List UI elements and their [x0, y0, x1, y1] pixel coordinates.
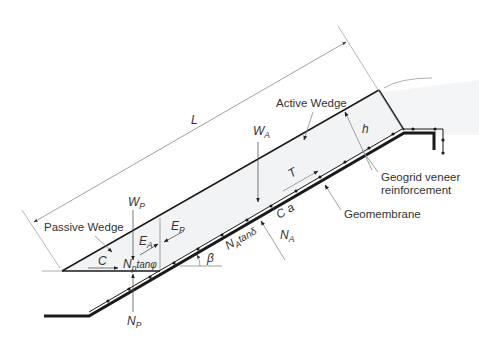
beta-arc — [197, 255, 200, 266]
geomembrane-pointer — [325, 185, 341, 210]
geogrid-label-line2: reinforcement — [381, 184, 452, 196]
crest-curve — [384, 78, 432, 88]
weight-active-label: WA — [253, 124, 270, 140]
cohesion-label: C — [98, 254, 107, 268]
veneer-slope-diagram: L Active Wedge h WA T C a NA NAtanδ Geog… — [0, 0, 479, 346]
slope-angle-label: β — [206, 251, 214, 265]
passive-wedge-label: Passive Wedge — [44, 221, 124, 233]
weight-passive-label: WP — [128, 195, 145, 211]
adhesion-label: C a — [274, 200, 297, 222]
length-label: L — [191, 113, 198, 127]
thickness-label: h — [362, 122, 369, 136]
geogrid-label: Geogrid veneer — [381, 171, 460, 183]
geomembrane-label: Geomembrane — [344, 208, 421, 220]
normal-active-label: NA — [280, 228, 295, 244]
active-wedge-label: Active Wedge — [276, 97, 347, 109]
cover-soil-surface — [62, 90, 379, 271]
extension-line-left — [22, 210, 60, 268]
normal-passive-label: NP — [127, 314, 142, 330]
